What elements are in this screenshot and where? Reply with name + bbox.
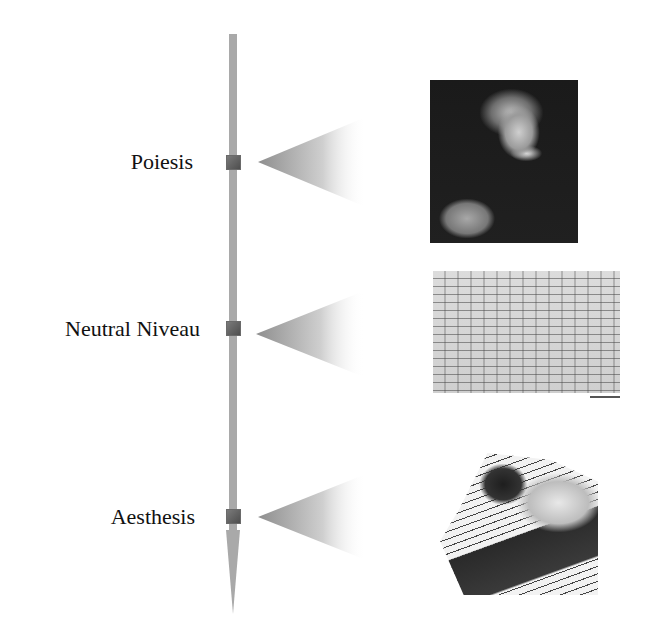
musical-manuscript-image: [433, 271, 620, 393]
manuscript-scale-bar: [590, 396, 620, 398]
composer-portrait-image: [430, 80, 578, 243]
arrow-down-icon: [226, 530, 240, 614]
projection-cone: [254, 279, 364, 389]
level-marker: [226, 155, 241, 170]
listener-at-piano-image: [440, 453, 598, 595]
projection-cone: [256, 107, 366, 217]
level-label-neutral-niveau: Neutral Niveau: [65, 316, 200, 342]
projection-cone: [256, 462, 366, 572]
level-label-poiesis: Poiesis: [131, 149, 193, 175]
level-label-aesthesis: Aesthesis: [111, 504, 195, 530]
level-marker: [226, 509, 241, 524]
timeline-axis: [229, 34, 237, 532]
level-marker: [226, 321, 241, 336]
